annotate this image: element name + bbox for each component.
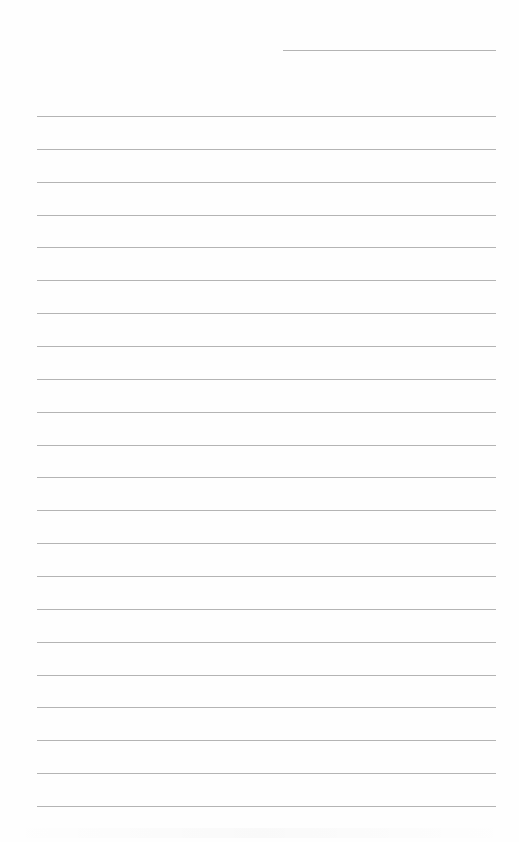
ruled-line (37, 313, 496, 314)
ruled-line (37, 675, 496, 676)
ruled-line (37, 543, 496, 544)
header-rule-line (283, 50, 496, 51)
scan-artifact (0, 828, 519, 838)
ruled-line (37, 609, 496, 610)
ruled-line (37, 806, 496, 807)
ruled-line (37, 346, 496, 347)
ruled-line (37, 642, 496, 643)
ruled-line (37, 412, 496, 413)
ruled-line (37, 510, 496, 511)
ruled-line (37, 707, 496, 708)
ruled-line (37, 149, 496, 150)
lined-page (0, 0, 519, 842)
ruled-line (37, 445, 496, 446)
ruled-line (37, 247, 496, 248)
ruled-line (37, 379, 496, 380)
ruled-line (37, 576, 496, 577)
ruled-line (37, 116, 496, 117)
ruled-line (37, 215, 496, 216)
ruled-line (37, 280, 496, 281)
ruled-line (37, 773, 496, 774)
ruled-line (37, 477, 496, 478)
ruled-line (37, 182, 496, 183)
ruled-line (37, 740, 496, 741)
